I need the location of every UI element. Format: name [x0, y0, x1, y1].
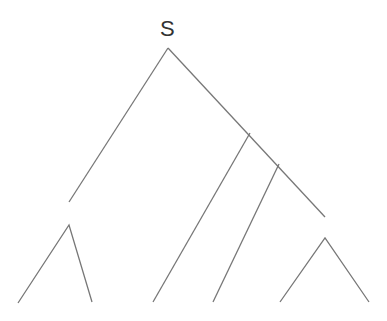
- subtree-triangle: [18, 225, 92, 303]
- subtree-triangle: [280, 238, 369, 302]
- tree-edge: [168, 48, 325, 217]
- tree-edge: [153, 133, 250, 302]
- tree-diagram: [0, 0, 387, 321]
- tree-edge: [69, 48, 168, 202]
- tree-edge: [213, 164, 279, 302]
